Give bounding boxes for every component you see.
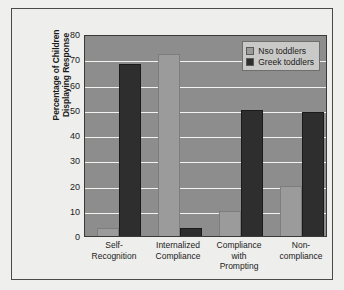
x-label-self-recognition-line-1: Self- (78, 240, 150, 251)
x-label-non-compliance: Non- compliance (265, 240, 337, 261)
bar-nso-self-recognition (97, 228, 119, 236)
plot-area: Nso toddlers Greek toddlers (84, 35, 327, 237)
y-tick-70: 70 (58, 56, 80, 65)
x-label-self-recognition: Self- Recognition (78, 240, 150, 261)
x-label-compliance-with-prompting-line-3: Prompting (203, 261, 275, 272)
bar-nso-non-compliance (280, 186, 302, 237)
bar-nso-compliance-with-prompting (219, 211, 241, 236)
x-axis-labels: Self- Recognition Internalized Complianc… (84, 240, 327, 286)
bar-greek-non-compliance (302, 112, 324, 236)
legend-swatch-nso-icon (246, 47, 254, 55)
legend-item-nso: Nso toddlers (246, 45, 314, 56)
legend-label-greek: Greek toddlers (258, 57, 314, 67)
chart-figure: Percentage of Children Displaying Respon… (0, 0, 344, 290)
y-tick-80: 80 (58, 31, 80, 40)
legend-swatch-greek-icon (246, 58, 254, 66)
bar-nso-internalized-compliance (158, 54, 180, 236)
y-tick-40: 40 (58, 132, 80, 141)
y-tick-60: 60 (58, 82, 80, 91)
x-label-non-compliance-line-1: Non- (265, 240, 337, 251)
bar-greek-internalized-compliance (180, 228, 202, 236)
bar-greek-compliance-with-prompting (241, 110, 263, 236)
bar-greek-self-recognition (119, 64, 141, 236)
y-tick-10: 10 (58, 208, 80, 217)
y-tick-30: 30 (58, 157, 80, 166)
legend-label-nso: Nso toddlers (258, 46, 306, 56)
chart-legend: Nso toddlers Greek toddlers (242, 41, 320, 71)
figure-frame: Percentage of Children Displaying Respon… (11, 8, 333, 280)
y-tick-0: 0 (58, 233, 80, 242)
x-label-non-compliance-line-2: compliance (265, 251, 337, 262)
y-axis-ticks: 80 70 60 50 40 30 20 10 0 (56, 35, 80, 237)
x-label-self-recognition-line-2: Recognition (78, 251, 150, 262)
y-tick-20: 20 (58, 183, 80, 192)
legend-item-greek: Greek toddlers (246, 56, 314, 67)
y-tick-50: 50 (58, 107, 80, 116)
